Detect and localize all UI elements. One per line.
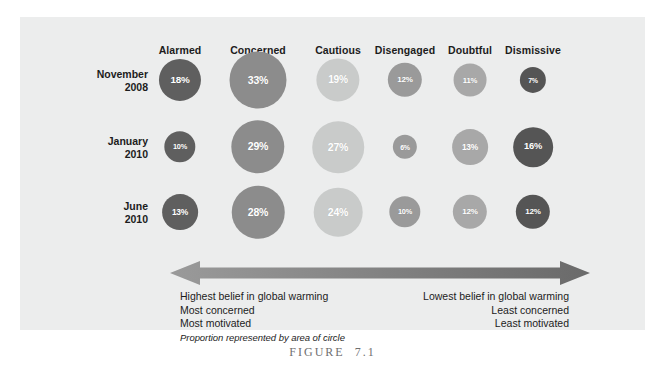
column-header-doubtful: Doubtful: [448, 44, 492, 56]
bubble-value: 10%: [173, 143, 187, 150]
bubble-value: 19%: [328, 75, 348, 85]
bubble-value: 27%: [328, 142, 348, 153]
caption-area-note: Proportion represented by area of circle: [180, 331, 345, 345]
column-header-dismissive: Dismissive: [505, 44, 561, 56]
figure-caption-number: 7.1: [355, 345, 376, 359]
bubble-value: 10%: [398, 208, 412, 215]
bubble-value: 24%: [328, 207, 348, 218]
figure-caption-label: FIGURE: [289, 345, 344, 359]
caption-right: Lowest belief in global warming Least co…: [423, 290, 569, 331]
bubble-value: 13%: [172, 208, 188, 216]
bubble-disengaged-january-2010: 6%: [393, 135, 417, 159]
bubble-value: 12%: [397, 76, 413, 84]
bubble-doubtful-june-2010: 12%: [453, 195, 487, 229]
bubble-cautious-november-2008: 19%: [316, 58, 359, 101]
bubble-dismissive-november-2008: 7%: [520, 67, 546, 93]
caption-right-line2: Least concerned: [423, 304, 569, 318]
row-label-november-2008: November2008: [97, 68, 148, 93]
bubble-concerned-june-2010: 28%: [232, 186, 285, 239]
bubble-value: 7%: [528, 77, 538, 84]
row-label-january-2010: January2010: [108, 135, 148, 160]
bubble-cautious-january-2010: 27%: [312, 121, 364, 173]
bubble-value: 16%: [524, 142, 542, 151]
bubble-cautious-june-2010: 24%: [314, 188, 363, 237]
row-label-june-2010: June2010: [123, 200, 148, 225]
caption-left: Highest belief in global warming Most co…: [180, 290, 345, 344]
column-header-disengaged: Disengaged: [375, 44, 436, 56]
figure-caption: FIGURE7.1: [0, 345, 665, 360]
bubble-value: 12%: [462, 208, 478, 216]
bubble-doubtful-november-2008: 11%: [454, 64, 487, 97]
bubble-alarmed-january-2010: 10%: [164, 131, 195, 162]
column-header-cautious: Cautious: [315, 44, 361, 56]
bubble-dismissive-january-2010: 16%: [513, 127, 553, 167]
bubble-value: 33%: [248, 75, 268, 86]
bubble-value: 6%: [400, 143, 410, 150]
bubble-value: 13%: [462, 143, 478, 151]
caption-right-line3: Least motivated: [423, 317, 569, 331]
caption-left-line3: Most motivated: [180, 317, 345, 331]
bubble-value: 11%: [463, 76, 477, 84]
bubble-concerned-november-2008: 33%: [230, 52, 287, 109]
bubble-doubtful-january-2010: 13%: [452, 129, 488, 165]
bubble-disengaged-november-2008: 12%: [388, 63, 422, 97]
caption-left-line1: Highest belief in global warming: [180, 290, 345, 304]
bubble-value: 28%: [248, 207, 268, 218]
bubble-concerned-january-2010: 29%: [231, 120, 284, 173]
spectrum-arrow-icon: [170, 260, 590, 286]
bubble-value: 18%: [170, 75, 189, 85]
bubble-alarmed-june-2010: 13%: [162, 194, 198, 230]
bubble-alarmed-november-2008: 18%: [159, 59, 201, 101]
caption-left-line2: Most concerned: [180, 304, 345, 318]
bubble-disengaged-june-2010: 10%: [389, 196, 420, 227]
figure-panel: AlarmedConcernedCautiousDisengagedDoubtf…: [20, 17, 645, 330]
bubble-value: 12%: [525, 208, 541, 216]
caption-right-line1: Lowest belief in global warming: [423, 290, 569, 304]
bubble-dismissive-june-2010: 12%: [516, 195, 550, 229]
column-header-alarmed: Alarmed: [159, 44, 202, 56]
bubble-value: 29%: [248, 142, 268, 153]
